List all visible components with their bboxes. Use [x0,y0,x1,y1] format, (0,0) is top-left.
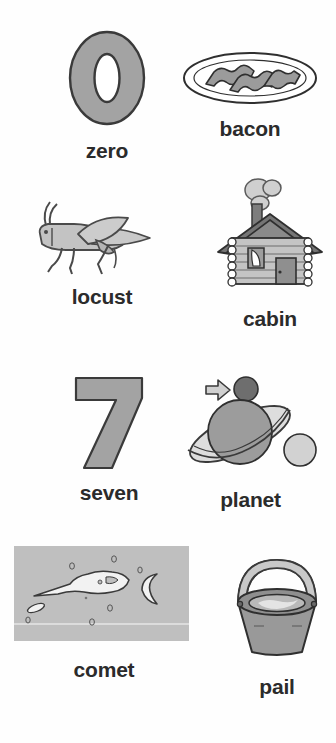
planet-with-ring-icon [178,368,323,483]
card-locust[interactable]: locust [22,198,182,307]
card-label-cabin: cabin [210,308,330,329]
seven-artwork [54,372,164,476]
card-label-pail: pail [222,676,332,697]
pail-bucket-icon [222,552,332,662]
comet-artwork [14,546,194,645]
locust-icon [22,198,182,278]
zero-artwork [52,28,162,132]
card-label-seven: seven [54,482,164,503]
card-seven[interactable]: seven [54,372,164,503]
card-zero[interactable]: zero [52,28,162,161]
numeral-zero-icon [52,28,162,128]
locust-artwork [22,198,182,282]
card-label-planet: planet [178,489,323,510]
card-cabin[interactable]: cabin [210,176,330,329]
log-cabin-icon [210,176,330,296]
cabin-artwork [210,176,330,300]
card-comet[interactable]: comet [14,546,194,680]
comet-night-sky-icon [14,546,189,641]
planet-artwork [178,368,323,487]
card-label-locust: locust [22,286,182,307]
numeral-seven-icon [54,372,164,472]
card-bacon[interactable]: bacon [180,48,320,139]
card-label-comet: comet [14,659,194,680]
card-label-bacon: bacon [180,118,320,139]
bacon-artwork [180,48,320,112]
worksheet-sheet: zero bacon [0,0,336,743]
bacon-plate-icon [180,48,320,108]
card-pail[interactable]: pail [222,552,332,697]
card-planet[interactable]: planet [178,368,323,510]
card-label-zero: zero [52,140,162,161]
pail-artwork [222,552,332,666]
